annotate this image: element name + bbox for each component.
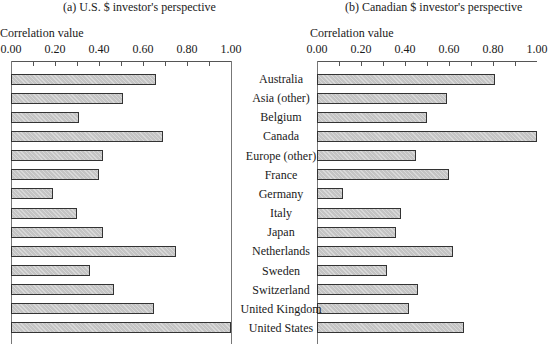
- category-label: Switzerland: [236, 282, 326, 297]
- chart-a-bar: [11, 150, 103, 161]
- chart-b-bar: [317, 246, 453, 257]
- chart-a-bar: [11, 112, 79, 123]
- chart-a-bar: [11, 265, 90, 276]
- chart-b-bar: [317, 169, 449, 180]
- chart-b-tick-mark: [383, 61, 384, 66]
- chart-a-tick-label: 0.40: [89, 42, 110, 57]
- chart-b-bar: [317, 303, 409, 314]
- chart-b-tick-label: 0.00: [307, 42, 328, 57]
- chart-a-bar: [11, 322, 231, 333]
- category-label: Italy: [236, 206, 326, 221]
- category-label: Australia: [236, 72, 326, 87]
- chart-b-title: (b) Canadian $ investor's perspective: [345, 0, 522, 15]
- chart-b-bar: [317, 208, 401, 219]
- chart-a-bar: [11, 303, 154, 314]
- category-label: Belgium: [236, 110, 326, 125]
- chart-a-tick-mark: [209, 61, 210, 66]
- chart-b-bar: [317, 112, 427, 123]
- category-label: Europe (other): [236, 148, 326, 163]
- chart-a-bar: [11, 246, 176, 257]
- chart-a-bar: [11, 131, 163, 142]
- chart-a-tick-label: 1.00: [221, 42, 242, 57]
- chart-b-bar: [317, 227, 396, 238]
- chart-a-bar: [11, 93, 123, 104]
- chart-b-bar: [317, 322, 464, 333]
- chart-b-tick-mark: [427, 61, 428, 66]
- chart-a-right-axis: [231, 61, 232, 344]
- chart-b-plot-area: [317, 61, 537, 344]
- chart-a-tick-label: 0.60: [133, 42, 154, 57]
- category-label: United Kingdom: [236, 301, 326, 316]
- chart-b-bar: [317, 131, 537, 142]
- chart-b-bar: [317, 150, 416, 161]
- chart-b-tick-mark: [471, 61, 472, 66]
- chart-a-tick-mark: [121, 61, 122, 66]
- chart-b-tick-mark: [493, 61, 494, 66]
- chart-a-axis-label: Correlation value: [0, 26, 84, 41]
- chart-a-tick-mark: [187, 61, 188, 66]
- chart-a-title: (a) U.S. $ investor's perspective: [63, 0, 216, 15]
- category-label: Canada: [236, 129, 326, 144]
- category-label: Asia (other): [236, 91, 326, 106]
- chart-a-tick-mark: [99, 61, 100, 66]
- chart-a-tick-mark: [33, 61, 34, 66]
- chart-b-tick-label: 0.20: [351, 42, 372, 57]
- chart-b-tick-mark: [339, 61, 340, 66]
- chart-a-tick-mark: [77, 61, 78, 66]
- category-label: United States: [236, 320, 326, 335]
- chart-b-tick-mark: [361, 61, 362, 66]
- category-label: Germany: [236, 186, 326, 201]
- chart-a-tick-label: 0.80: [177, 42, 198, 57]
- chart-b-tick-label: 0.60: [439, 42, 460, 57]
- chart-b-tick-mark: [449, 61, 450, 66]
- chart-a-bar: [11, 227, 103, 238]
- chart-b-tick-mark: [405, 61, 406, 66]
- chart-b-bar: [317, 284, 418, 295]
- chart-b-bar: [317, 74, 495, 85]
- chart-a-bar: [11, 208, 77, 219]
- chart-a-tick-mark: [165, 61, 166, 66]
- chart-a-tick-label: 0.00: [1, 42, 22, 57]
- chart-a-tick-label: 0.20: [45, 42, 66, 57]
- chart-a-bar: [11, 284, 114, 295]
- chart-a-tick-mark: [55, 61, 56, 66]
- category-label: France: [236, 167, 326, 182]
- chart-b-tick-label: 0.40: [395, 42, 416, 57]
- chart-b-bar: [317, 265, 387, 276]
- category-label: Sweden: [236, 263, 326, 278]
- chart-b-tick-mark: [515, 61, 516, 66]
- category-label: Netherlands: [236, 244, 326, 259]
- chart-a-bar: [11, 169, 99, 180]
- category-label: Japan: [236, 225, 326, 240]
- chart-a-bar: [11, 74, 156, 85]
- chart-a-plot-area: [11, 61, 231, 344]
- chart-b-bar: [317, 93, 447, 104]
- chart-b-tick-label: 0.80: [483, 42, 504, 57]
- chart-b-tick-label: 1.00: [527, 42, 548, 57]
- chart-a-bar: [11, 188, 53, 199]
- chart-a-tick-mark: [143, 61, 144, 66]
- chart-b-axis-label: Correlation value: [310, 26, 394, 41]
